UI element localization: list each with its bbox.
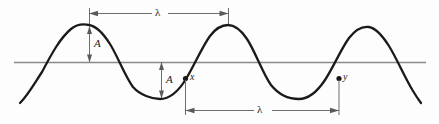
sine-wave-curve <box>20 24 421 103</box>
wave-diagram-figure: λ λ A A x y <box>0 0 439 124</box>
wavelength-bottom-left-arrowhead <box>186 108 195 113</box>
amplitude-upper-bottom-arrowhead <box>87 55 92 63</box>
wave-diagram-canvas <box>0 0 439 124</box>
amplitude-lower-label: A <box>166 74 173 85</box>
wavelength-bottom-label: λ <box>257 104 262 115</box>
amplitude-lower-annotation <box>159 62 164 99</box>
point-x-label: x <box>190 72 194 82</box>
amplitude-lower-bottom-arrowhead <box>159 91 164 99</box>
wavelength-top-label: λ <box>155 7 160 18</box>
wavelength-top-right-arrowhead <box>220 11 229 16</box>
wavelength-bottom-right-arrowhead <box>330 108 339 113</box>
amplitude-upper-annotation <box>87 26 92 63</box>
amplitude-upper-label: A <box>94 38 101 49</box>
point-y-label: y <box>343 72 347 82</box>
amplitude-upper-top-arrowhead <box>87 26 92 34</box>
wavelength-top-left-arrowhead <box>89 11 98 16</box>
